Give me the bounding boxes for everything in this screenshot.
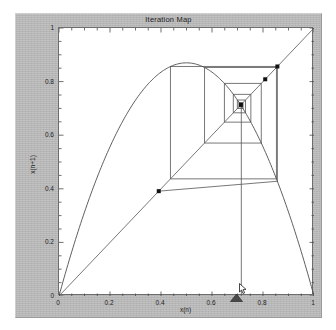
x-tick-label: 0.6 <box>206 299 215 306</box>
y-tick-label: 0.6 <box>30 131 54 138</box>
map-curve <box>59 63 314 296</box>
x-tick-label: 0.2 <box>104 299 113 306</box>
y-tick-label: 0 <box>30 292 54 299</box>
x-tick-label: 0 <box>56 299 60 306</box>
x-tick-label: 0.8 <box>257 299 266 306</box>
cobweb-path <box>159 66 278 296</box>
x-tick-label: 1 <box>311 299 315 306</box>
plot-area[interactable] <box>58 27 313 295</box>
figure-panel: Iteration Map x(n+1) x(n) 00.20.40.60.81… <box>15 13 322 318</box>
iteration-marker <box>275 64 279 68</box>
plot-canvas <box>59 28 314 296</box>
x-axis-label: x(n) <box>58 306 313 313</box>
iteration-marker <box>263 77 267 81</box>
y-tick-label: 0.8 <box>30 77 54 84</box>
chart-title: Iteration Map <box>16 15 321 24</box>
iteration-marker <box>157 189 161 193</box>
y-tick-label: 0.4 <box>30 184 54 191</box>
iteration-marker <box>239 103 243 107</box>
x-tick-label: 0.4 <box>155 299 164 306</box>
y-tick-label: 1 <box>30 24 54 31</box>
y-tick-label: 0.2 <box>30 238 54 245</box>
